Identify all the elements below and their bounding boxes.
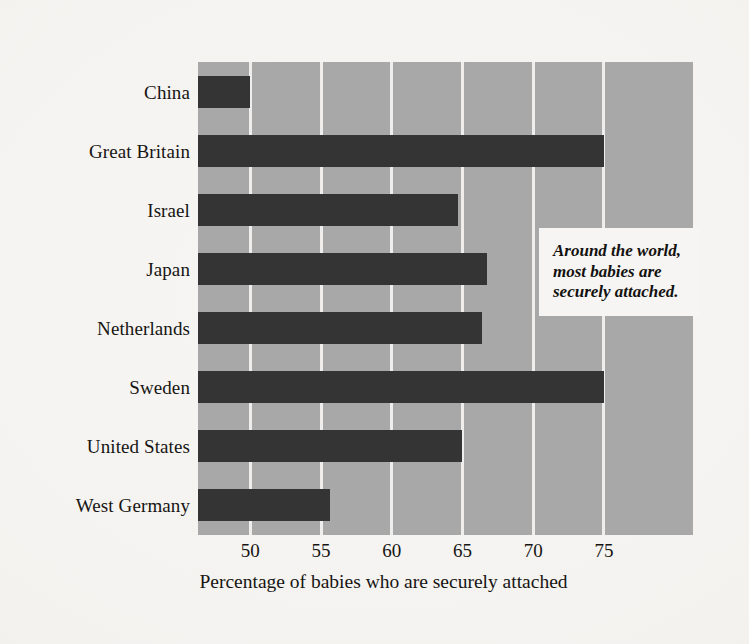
bar <box>198 253 487 285</box>
x-axis-tick-labels: 505560657075 <box>198 541 693 567</box>
bar <box>198 194 458 226</box>
bar <box>198 430 462 462</box>
x-tick-60: 60 <box>382 541 401 560</box>
annotation-text: Around the world, most babies are secure… <box>539 241 700 303</box>
x-axis-title: Percentage of babies who are securely at… <box>0 571 749 593</box>
category-label-united-states: United States <box>0 437 190 456</box>
x-tick-75: 75 <box>594 541 613 560</box>
x-tick-70: 70 <box>524 541 543 560</box>
category-label-china: China <box>0 83 190 102</box>
bar-chart: ChinaGreat BritainIsraelJapanNetherlands… <box>0 0 749 644</box>
bar <box>198 135 604 167</box>
annotation-callout: Around the world, most babies are secure… <box>539 228 700 316</box>
bar <box>198 76 250 108</box>
x-tick-65: 65 <box>453 541 472 560</box>
category-label-israel: Israel <box>0 201 190 220</box>
gridline-50 <box>249 62 252 535</box>
category-axis-labels: ChinaGreat BritainIsraelJapanNetherlands… <box>0 62 190 535</box>
category-label-japan: Japan <box>0 260 190 279</box>
bar <box>198 312 482 344</box>
gridline-70 <box>532 62 535 535</box>
category-label-netherlands: Netherlands <box>0 319 190 338</box>
x-tick-55: 55 <box>312 541 331 560</box>
gridline-65 <box>461 62 464 535</box>
category-label-west-germany: West Germany <box>0 496 190 515</box>
category-label-great-britain: Great Britain <box>0 142 190 161</box>
x-tick-50: 50 <box>241 541 260 560</box>
bar <box>198 371 604 403</box>
bar <box>198 489 330 521</box>
category-label-sweden: Sweden <box>0 378 190 397</box>
gridline-55 <box>320 62 323 535</box>
gridline-60 <box>390 62 393 535</box>
